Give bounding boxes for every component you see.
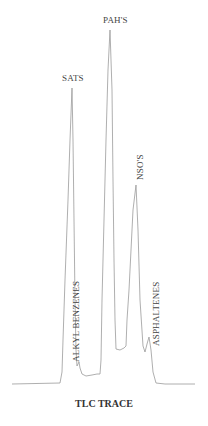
peak-label-asphaltenes: ASPHALTENES <box>151 282 161 346</box>
peak-label-sats: SATS <box>62 73 84 83</box>
peak-label-nsos: NSO'S <box>135 154 145 180</box>
tlc-trace-line <box>0 0 208 426</box>
peak-label-alkyl-benzenes: ALKYL BENZENES <box>71 281 81 362</box>
peak-label-pahs: PAH'S <box>103 15 128 25</box>
figure-title: TLC TRACE <box>0 398 208 409</box>
